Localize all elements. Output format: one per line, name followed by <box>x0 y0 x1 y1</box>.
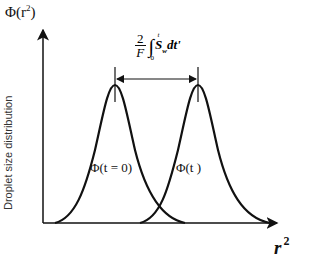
integrand: Swdt' <box>155 37 181 55</box>
curve-label-t0: Φ(t = 0) <box>90 160 132 176</box>
fraction: 2 F <box>135 32 146 60</box>
curve-label-t: Φ(t ) <box>176 160 201 176</box>
integral-sign-icon: ∫t0 <box>149 35 154 58</box>
curve-t0 <box>55 85 185 223</box>
y-axis-name: Φ(r2) <box>5 3 35 21</box>
y-axis-label: Droplet size distribution <box>2 96 14 210</box>
x-axis-name: r2 <box>274 234 289 259</box>
shift-formula: 2 F ∫t0 Swdt' <box>135 32 181 60</box>
droplet-size-distribution-diagram: Φ(r2) Droplet size distribution r2 Φ(t =… <box>0 0 319 263</box>
curve-t <box>140 85 270 223</box>
